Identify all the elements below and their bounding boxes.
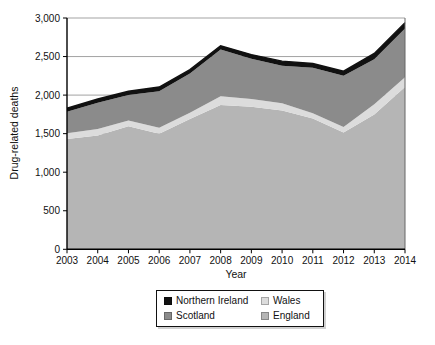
x-tick-label: 2008	[210, 255, 233, 266]
x-tick-label: 2013	[363, 255, 386, 266]
x-tick-label: 2003	[56, 255, 79, 266]
legend-label-northern-ireland: Northern Ireland	[176, 295, 248, 306]
y-tick-label: 2,500	[35, 51, 60, 62]
x-tick-label: 2005	[117, 255, 140, 266]
y-tick-label: 3,000	[35, 13, 60, 24]
x-tick-label: 2010	[271, 255, 294, 266]
legend-swatch-scotland	[164, 312, 172, 320]
legend-label-england: England	[273, 310, 310, 321]
x-axis-title: Year	[225, 268, 246, 280]
legend-swatch-wales	[261, 297, 269, 305]
x-tick-label: 2004	[87, 255, 110, 266]
legend-item-scotland: Scotland	[164, 310, 261, 321]
y-axis-title: Drug-related deaths	[8, 87, 20, 180]
y-tick-label: 500	[43, 205, 60, 216]
x-tick-label: 2006	[148, 255, 171, 266]
x-tick-label: 2014	[394, 255, 417, 266]
legend: Northern IrelandWalesScotlandEngland	[156, 290, 324, 327]
x-tick-label: 2009	[240, 255, 263, 266]
legend-item-northern-ireland: Northern Ireland	[164, 295, 261, 306]
legend-swatch-england	[261, 312, 269, 320]
legend-label-scotland: Scotland	[176, 310, 215, 321]
legend-item-england: England	[261, 310, 316, 321]
legend-swatch-northern-ireland	[164, 297, 172, 305]
legend-item-wales: Wales	[261, 295, 316, 306]
x-tick-label: 2012	[332, 255, 355, 266]
y-tick-label: 1,000	[35, 167, 60, 178]
y-tick-label: 1,500	[35, 128, 60, 139]
y-tick-label: 2,000	[35, 90, 60, 101]
stacked-area-chart-figure: 05001,0001,5002,0002,5003,00020032004200…	[0, 0, 435, 345]
x-tick-label: 2011	[302, 255, 324, 266]
legend-label-wales: Wales	[273, 295, 300, 306]
x-tick-label: 2007	[179, 255, 202, 266]
y-tick-label: 0	[54, 244, 60, 255]
